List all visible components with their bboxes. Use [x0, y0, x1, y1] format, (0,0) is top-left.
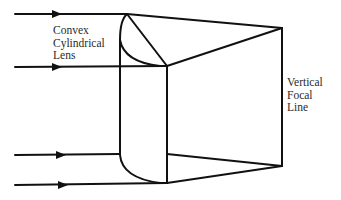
- arrow-icon: [52, 10, 62, 18]
- lens-label: Convex Cylindrical Lens: [53, 24, 105, 62]
- incident-ray-1: [15, 10, 127, 18]
- incident-ray-2: [15, 63, 167, 71]
- arrow-icon: [56, 151, 66, 159]
- cylindrical-lens: [120, 14, 167, 183]
- incident-ray-4: [15, 181, 167, 189]
- arrow-icon: [52, 63, 62, 71]
- incident-ray-3: [15, 151, 120, 159]
- focal-line-label: Vertical Focal Line: [287, 76, 323, 114]
- refracted-rays: [120, 14, 282, 183]
- arrow-icon: [58, 181, 68, 189]
